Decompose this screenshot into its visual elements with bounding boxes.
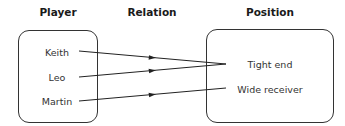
- arrowhead-icon: [149, 55, 156, 60]
- arrowhead-icon: [149, 69, 156, 74]
- arrowhead-icon: [149, 93, 156, 98]
- relation-arrows: [0, 0, 345, 126]
